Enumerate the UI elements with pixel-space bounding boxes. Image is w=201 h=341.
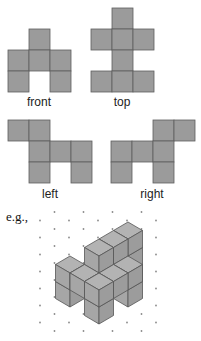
grid-dot [54, 228, 56, 230]
grid-dot [112, 228, 114, 230]
grid-dot [97, 237, 99, 239]
grid-dot [39, 237, 41, 239]
grid-dot [54, 211, 56, 213]
grid-dot [97, 220, 99, 222]
grid-dot [68, 237, 70, 239]
grid-dot [112, 211, 114, 213]
grid-dot [39, 220, 41, 222]
grid-dot [54, 262, 56, 264]
grid-dot [155, 237, 157, 239]
grid-dot [39, 305, 41, 307]
grid-dot [54, 330, 56, 332]
grid-dot [83, 330, 85, 332]
grid-dot [39, 254, 41, 256]
grid-dot [155, 305, 157, 307]
grid-dot [112, 330, 114, 332]
grid-dot [126, 220, 128, 222]
grid-dot [39, 322, 41, 324]
grid-dot [155, 288, 157, 290]
grid-dot [126, 322, 128, 324]
grid-dot [68, 220, 70, 222]
grid-dot [141, 330, 143, 332]
grid-dot [141, 313, 143, 315]
grid-dot [39, 288, 41, 290]
grid-dot [83, 211, 85, 213]
grid-dot [155, 254, 157, 256]
grid-dot [68, 322, 70, 324]
grid-dot [83, 228, 85, 230]
grid-dot [39, 271, 41, 273]
grid-dot [141, 211, 143, 213]
isometric-drawing [0, 0, 201, 341]
grid-dot [155, 220, 157, 222]
grid-dot [155, 322, 157, 324]
grid-dot [155, 271, 157, 273]
grid-dot [54, 313, 56, 315]
grid-dot [68, 254, 70, 256]
grid-dot [54, 245, 56, 247]
grid-dot [83, 245, 85, 247]
